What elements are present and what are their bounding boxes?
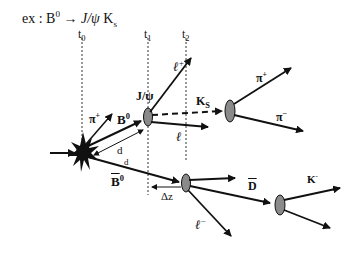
t0-sub: 0 [81,34,85,43]
jpsi-label: J/ψ [136,90,154,102]
b0-text: B [117,112,126,127]
lepton-minus-label: ℓ− [195,218,206,231]
title-ks: K [100,11,114,26]
k-minus-text: K [307,173,316,185]
delta-z-label: Δz [161,191,173,202]
ks-text: K [196,94,205,108]
reaction-title: ex : B0 → J/ψ Ks [22,12,117,29]
lepton-plus-sup: + [178,58,184,68]
t1-label: t1 [144,28,152,44]
dbar-second-daughter-track [284,210,330,228]
title-jpsi: J/ψ [81,11,100,26]
b0bar-label: B0 [111,175,124,188]
pi-plus-prompt-text: π [89,112,96,126]
pi-plus-sup: + [263,70,267,79]
pi-plus-label: π+ [256,72,267,84]
title-prefix: ex : B [22,11,55,26]
pi-minus-label: π− [276,111,287,123]
distance-d-label: d [117,145,123,156]
t2-sub: 2 [185,34,189,43]
ks-vertex [225,100,235,122]
b0bar-sup: 0 [120,173,124,183]
lepton-minus-jpsi-label: ℓ [176,130,181,143]
lepton-minus-sup: − [200,216,206,226]
dbar-text: D [248,179,257,193]
t1-sub: 1 [147,34,151,43]
distance-d2-label: d [124,158,129,167]
t0-label: t0 [78,28,86,44]
title-ks-sub: s [113,19,117,29]
dbar-vertex [275,195,285,215]
pi-minus-sup: − [283,109,287,118]
pi-minus-track [234,115,303,131]
title-arrow: → [60,11,81,26]
lepton-minus-jpsi-track [151,122,208,127]
pi-plus-prompt-sup: + [96,111,100,120]
k-minus-track [284,188,340,200]
dbar-label: D [248,180,257,192]
b0bar-vertex [182,174,191,192]
lepton-plus-track [150,58,191,112]
ks-label: KS [196,95,210,111]
b0bar-track [88,157,179,182]
pi-plus-prompt-label: π+ [89,113,100,125]
b0-sup: 0 [126,111,130,121]
ks-track [152,111,222,115]
ks-sub: S [205,101,210,110]
lepton-plus-label: ℓ+ [173,60,184,73]
k-minus-sup: - [316,172,318,180]
b0bar-forward-track [189,178,235,180]
dbar-track [190,186,270,203]
lepton-minus-jpsi-text: ℓ [176,129,181,144]
t2-label: t2 [182,28,190,44]
b0bar-text: B [111,174,120,189]
pi-plus-text: π [256,71,263,85]
b0-label: B0 [117,113,130,126]
k-minus-label: K- [307,174,318,185]
pi-minus-text: π [276,110,283,124]
